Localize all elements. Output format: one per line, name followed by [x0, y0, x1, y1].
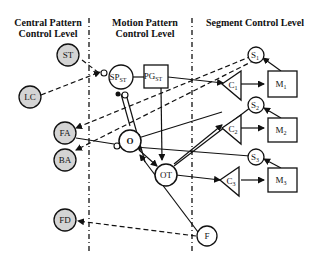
node-m2: M2: [268, 118, 297, 142]
node-ot: OT: [155, 164, 177, 186]
node-s2: S2: [248, 97, 264, 113]
column-heading-motion: Motion Pattern Control Level: [112, 17, 178, 39]
svg-text:F: F: [204, 231, 209, 241]
node-pg-st: PGST: [144, 65, 168, 88]
svg-text:OT: OT: [160, 170, 172, 180]
node-m1: M1: [268, 71, 297, 97]
solid-connections: [76, 58, 281, 232]
inhibitory-junction: [101, 70, 107, 76]
node-o: O: [119, 130, 141, 152]
node-s1: S1: [248, 47, 264, 63]
svg-text:BA: BA: [59, 155, 72, 165]
node-m3: M3: [268, 168, 297, 192]
node-sp-st: SPST: [109, 65, 133, 89]
column-heading-central: Central Pattern Control Level: [14, 17, 82, 39]
control-architecture-diagram: Central Pattern Control Level Motion Pat…: [0, 0, 314, 261]
svg-text:Central Pattern: Central Pattern: [14, 17, 82, 28]
svg-text:ST: ST: [63, 50, 74, 60]
excitatory-junction: [116, 92, 121, 97]
svg-text:FA: FA: [60, 128, 71, 138]
node-c2: C2: [222, 115, 241, 144]
svg-text:LC: LC: [24, 92, 36, 102]
node-fd: FD: [54, 209, 76, 231]
node-c3: C3: [220, 167, 239, 196]
svg-text:Control Level: Control Level: [19, 28, 78, 39]
svg-text:Control Level: Control Level: [116, 28, 175, 39]
node-ba: BA: [54, 149, 76, 171]
node-s3: S3: [248, 149, 264, 165]
node-fa: FA: [54, 122, 76, 144]
node-st: ST: [57, 44, 79, 66]
column-heading-segment: Segment Control Level: [206, 17, 304, 28]
svg-text:O: O: [126, 136, 133, 146]
svg-text:Motion Pattern: Motion Pattern: [112, 17, 178, 28]
node-f: F: [197, 226, 217, 246]
inhibitory-junction: [122, 92, 128, 98]
node-lc: LC: [19, 86, 41, 108]
svg-text:FD: FD: [59, 215, 71, 225]
svg-text:Segment Control Level: Segment Control Level: [206, 17, 304, 28]
